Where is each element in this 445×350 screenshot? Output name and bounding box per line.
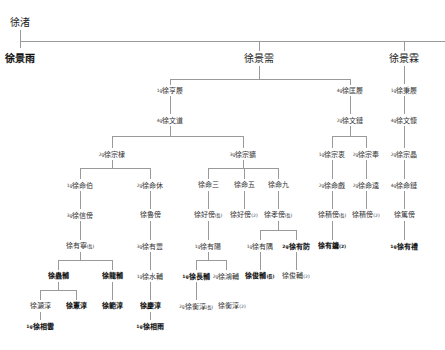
person-node: 4g徐文道 xyxy=(157,116,184,126)
person-name: 徐鴻輔 xyxy=(218,273,239,281)
tree-connector-line xyxy=(76,290,77,300)
person-node: 徐有鏞(2) xyxy=(318,242,346,251)
person-name: 徐孝傍 xyxy=(264,211,285,219)
tree-connector-line xyxy=(366,191,367,209)
person-name: 徐宗棣 xyxy=(104,151,125,159)
person-name: 徐篤傍 xyxy=(394,211,415,219)
person-node: 1g徐相雨 xyxy=(136,322,163,332)
tree-connector-line xyxy=(150,168,151,179)
tree-connector-line xyxy=(296,230,297,240)
tree-connector-line xyxy=(244,191,245,209)
tree-connector-line xyxy=(80,168,150,169)
person-node: 徐好傍(2) xyxy=(230,211,257,220)
person-node: 徐篤傍 xyxy=(394,211,415,220)
birth-order-suffix: (長) xyxy=(87,244,95,249)
tree-connector-line xyxy=(170,96,171,114)
tree-connector-line xyxy=(366,160,367,179)
birth-order-suffix: (2) xyxy=(373,213,379,218)
person-name: 徐俊輔 xyxy=(282,272,303,280)
person-node: 1g徐宗衷 xyxy=(319,150,346,160)
person-node: 徐魯傍 xyxy=(140,211,161,220)
person-name: 徐亨履 xyxy=(162,87,183,95)
tree-connector-line xyxy=(170,79,171,85)
tree-connector-line xyxy=(296,252,297,270)
person-name: 徐命五 xyxy=(234,181,255,189)
tree-connector-line xyxy=(208,191,209,209)
person-name: 徐命逵 xyxy=(358,182,379,190)
person-name: 徐秉履 xyxy=(396,87,417,95)
person-name: 徐命九 xyxy=(268,181,289,189)
person-node: 徐積傍(2) xyxy=(352,211,379,220)
tree-connector-line xyxy=(260,252,261,270)
person-name: 徐命戲 xyxy=(324,182,345,190)
person-name: 徐命伯 xyxy=(72,182,93,190)
person-name: 徐景霖 xyxy=(389,53,419,64)
tree-connector-line xyxy=(332,160,333,179)
person-name: 徐俊輔 xyxy=(245,272,266,280)
person-name: 徐匡履 xyxy=(342,87,363,95)
birth-order-suffix: (長) xyxy=(215,213,223,218)
person-node: 徐好傍(長) xyxy=(194,211,223,220)
tree-connector-line xyxy=(243,160,244,168)
person-name: 徐蟲輔 xyxy=(48,272,69,280)
tree-connector-line xyxy=(112,136,243,137)
birth-order-suffix: (長) xyxy=(339,213,347,218)
tree-connector-line xyxy=(404,191,405,209)
tree-connector-line xyxy=(150,312,151,320)
tree-connector-line xyxy=(208,252,209,260)
tree-connector-line xyxy=(80,168,81,179)
tree-connector-line xyxy=(244,168,245,179)
person-name: 徐宗獷 xyxy=(235,151,256,159)
tree-connector-line xyxy=(170,79,350,80)
person-name: 徐文道 xyxy=(162,117,183,125)
root-ancestor-node: 徐渚 xyxy=(10,17,30,29)
tree-connector-line xyxy=(226,260,227,270)
person-name: 徐好傍 xyxy=(194,211,215,219)
tree-connector-line xyxy=(332,221,333,240)
person-name: 徐渚 xyxy=(10,17,30,28)
person-name: 徐有防 xyxy=(289,243,310,251)
person-name: 徐慶淳 xyxy=(140,302,161,310)
person-node: 徐命三 xyxy=(198,181,219,190)
person-name: 徐命三 xyxy=(198,181,219,189)
person-name: 徐有鏞 xyxy=(318,242,339,250)
birth-order-suffix: (2) xyxy=(303,274,309,279)
person-name: 徐有禮 xyxy=(397,243,418,251)
tree-connector-line xyxy=(278,191,279,209)
person-name: 徐龍輔 xyxy=(102,272,123,280)
person-name: 徐灝淳 xyxy=(30,302,51,310)
tree-connector-line xyxy=(404,66,405,84)
tree-connector-line xyxy=(170,126,171,136)
person-node: 徐命九 xyxy=(268,181,289,190)
tree-connector-line xyxy=(278,168,279,179)
tree-connector-line xyxy=(112,160,113,168)
person-node: 徐有寧(長) xyxy=(66,242,95,251)
tree-connector-line xyxy=(196,260,226,261)
tree-connector-line xyxy=(404,221,405,240)
tree-connector-line xyxy=(208,168,278,169)
person-name: 徐魯傍 xyxy=(140,211,161,219)
tree-connector-line xyxy=(350,96,351,114)
person-name: 徐文鏈 xyxy=(342,117,363,125)
tree-connector-line xyxy=(243,136,244,148)
tree-connector-line xyxy=(20,41,445,42)
person-name: 徐景需 xyxy=(244,53,274,64)
person-node: 徐範淳 xyxy=(102,302,123,311)
tree-connector-line xyxy=(278,221,279,230)
person-node: 徐蟲輔 xyxy=(48,272,69,281)
person-node: 徐積傍(長) xyxy=(318,211,347,220)
tree-connector-line xyxy=(40,290,41,300)
person-node: 徐景雨 xyxy=(5,53,35,65)
person-node: 3g徐有豐 xyxy=(137,242,164,252)
person-node: 1g徐亨履 xyxy=(157,86,184,96)
person-node: 4g徐匡履 xyxy=(337,86,364,96)
tree-connector-line xyxy=(208,168,209,179)
tree-connector-line xyxy=(150,282,151,300)
tree-connector-line xyxy=(259,41,260,51)
person-name: 徐宗晶 xyxy=(396,151,417,159)
person-node: 3g徐信傍 xyxy=(67,211,94,221)
person-node: 2g徐命戲 xyxy=(319,181,346,191)
tree-connector-line xyxy=(332,136,333,148)
tree-connector-line xyxy=(404,41,405,51)
tree-connector-line xyxy=(404,96,405,114)
